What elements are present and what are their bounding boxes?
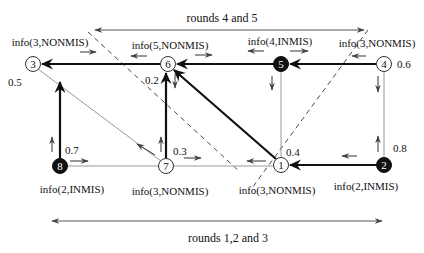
node-3: 3 info(3,NONMIS) 0.5 [8,36,89,88]
node-1-label: 1 [278,159,284,171]
bottom-span-label: rounds 1,2 and 3 [188,231,268,245]
node-3-label: 3 [30,58,36,70]
message-passing-diagram: rounds 4 and 5 rounds 1,2 and 3 [0,0,424,253]
node-2-label: 2 [381,159,387,171]
node-2-info: info(2,INMIS) [334,180,399,193]
msg-arrow-7-diag [137,144,155,155]
bottom-round-span: rounds 1,2 and 3 [52,221,382,245]
top-round-span: rounds 4 and 5 [95,11,364,30]
node-6-info: info(5,NONMIS) [132,39,209,52]
node-4-info: info(3,NONMIS) [339,37,416,50]
partition-dashed-line-left [88,32,240,172]
node-4-weight: 0.6 [397,58,411,70]
node-2-weight: 0.8 [393,142,407,154]
bold-edges [42,64,377,165]
node-4-label: 4 [381,58,387,70]
node-7: 7 info(3,NONMIS) 0.3 [132,145,209,198]
node-1-weight: 0.4 [286,146,300,158]
node-6-weight: 0.2 [145,74,159,86]
node-6-label: 6 [165,58,171,70]
node-5-label: 5 [278,58,284,70]
node-8-info: info(2,INMIS) [40,183,105,196]
node-5: 5 info(4,INMIS) [248,35,313,72]
node-1-info: info(3,NONMIS) [239,184,316,197]
node-6: 6 info(5,NONMIS) 0.2 [132,39,209,86]
node-2: 2 info(2,INMIS) 0.8 [334,142,407,193]
node-8: 8 info(2,INMIS) 0.7 [40,144,105,196]
node-7-weight: 0.3 [173,145,187,157]
edge-1-to-6 [174,70,276,159]
node-8-label: 8 [57,160,63,172]
top-span-label: rounds 4 and 5 [187,11,258,25]
thin-edges [38,69,384,166]
node-8-weight: 0.7 [65,144,79,156]
node-7-info: info(3,NONMIS) [132,185,209,198]
node-5-info: info(4,INMIS) [248,35,313,48]
node-7-label: 7 [163,160,169,172]
node-3-info: info(3,NONMIS) [12,36,89,49]
node-3-weight: 0.5 [8,76,22,88]
